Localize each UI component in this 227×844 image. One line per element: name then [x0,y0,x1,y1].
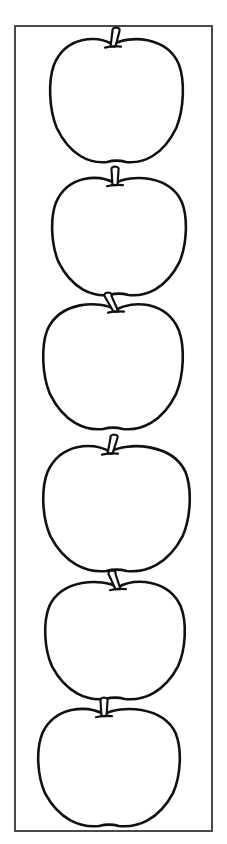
apple-stem-base [110,589,126,590]
apple-body-outline [45,582,185,699]
apple-body-outline [38,709,180,826]
apple-outline-icon [43,293,183,430]
apple-stem-base [108,311,124,312]
apple-body-outline [43,304,183,429]
apple-outlines-group [0,0,227,844]
apple-body-outline [52,178,186,295]
apple-stem-base [107,185,123,186]
apple-stem-base [102,453,118,454]
apple-body-outline [43,446,190,571]
apple-outline-icon [52,167,186,296]
apple-outline-icon [45,571,185,700]
apple-stem-icon [111,167,118,186]
apple-stem-base [96,716,112,717]
apple-outline-icon [43,435,190,572]
apple-stem-icon [100,698,107,717]
apple-outline-icon [38,698,180,827]
apple-worksheet [0,0,227,844]
apple-body-outline [50,39,183,162]
apple-stem-base [105,46,121,47]
apple-outline-icon [50,28,183,163]
